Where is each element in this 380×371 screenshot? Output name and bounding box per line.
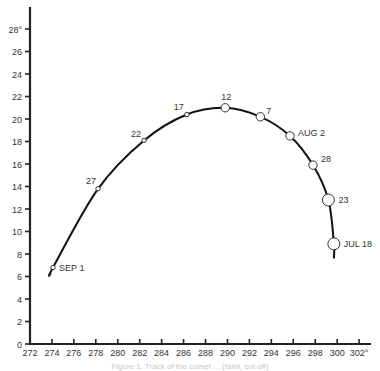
- x-axis-ticks: 2722742762782802822842862882902922942962…: [22, 339, 368, 358]
- y-tick-label: 16: [12, 160, 22, 170]
- data-points: JUL 182328AUG 2712172227SEP 1: [51, 92, 372, 273]
- x-tick-label: 278: [88, 348, 103, 358]
- point-label: 12: [221, 92, 231, 102]
- y-tick-label: 22: [12, 92, 22, 102]
- x-tick-label: 300: [330, 348, 345, 358]
- marker-circle-icon: [256, 113, 264, 121]
- y-tick-label: 10: [12, 227, 22, 237]
- marker-circle-icon: [185, 112, 189, 116]
- data-point: 27: [86, 176, 100, 191]
- marker-circle-icon: [328, 238, 340, 250]
- point-label: 23: [338, 195, 348, 205]
- data-point: 12: [221, 92, 231, 112]
- y-tick-label: 6: [17, 272, 22, 282]
- marker-circle-icon: [51, 265, 55, 269]
- point-label: 17: [174, 102, 184, 112]
- y-tick-label: 28°: [8, 25, 22, 35]
- x-tick-label: 272: [22, 348, 37, 358]
- point-label: 27: [86, 176, 96, 186]
- point-label: SEP 1: [59, 263, 84, 273]
- marker-circle-icon: [309, 161, 317, 169]
- point-label: AUG 2: [298, 128, 325, 138]
- point-label: 7: [266, 106, 271, 116]
- x-tick-label: 286: [176, 348, 191, 358]
- x-tick-label: 284: [154, 348, 169, 358]
- marker-circle-icon: [142, 138, 146, 142]
- x-tick-label: 288: [198, 348, 213, 358]
- data-point: 22: [131, 129, 146, 142]
- x-tick-label: 294: [264, 348, 279, 358]
- data-point: 23: [322, 194, 348, 206]
- x-tick-label: 302°: [350, 348, 369, 358]
- data-point: 28: [309, 154, 331, 169]
- data-point: AUG 2: [286, 128, 325, 140]
- x-tick-label: 280: [110, 348, 125, 358]
- marker-circle-icon: [96, 187, 100, 191]
- point-label: 28: [321, 154, 331, 164]
- y-tick-label: 4: [17, 295, 22, 305]
- x-tick-label: 292: [242, 348, 257, 358]
- y-tick-label: 0: [17, 340, 22, 350]
- point-label: 22: [131, 129, 141, 139]
- data-point: 17: [174, 102, 189, 117]
- y-tick-label: 26: [12, 47, 22, 57]
- x-tick-label: 296: [286, 348, 301, 358]
- marker-circle-icon: [286, 132, 294, 140]
- x-tick-label: 290: [220, 348, 235, 358]
- y-tick-label: 8: [17, 250, 22, 260]
- x-tick-label: 274: [44, 348, 59, 358]
- chart: 0246810121416182022242628° 2722742762782…: [0, 0, 380, 371]
- y-tick-label: 18: [12, 137, 22, 147]
- marker-circle-icon: [322, 194, 334, 206]
- y-tick-label: 20: [12, 115, 22, 125]
- x-tick-label: 298: [308, 348, 323, 358]
- y-tick-label: 2: [17, 317, 22, 327]
- data-point: 7: [256, 106, 271, 121]
- x-tick-label: 282: [132, 348, 147, 358]
- figure-caption: Figure 1. Track of the comet ... (faint,…: [111, 362, 269, 371]
- y-tick-label: 14: [12, 182, 22, 192]
- y-axis-ticks: 0246810121416182022242628°: [8, 25, 30, 350]
- marker-circle-icon: [221, 104, 229, 112]
- data-point: JUL 18: [328, 238, 372, 250]
- x-tick-label: 276: [66, 348, 81, 358]
- point-label: JUL 18: [344, 239, 372, 249]
- y-tick-label: 24: [12, 70, 22, 80]
- y-tick-label: 12: [12, 205, 22, 215]
